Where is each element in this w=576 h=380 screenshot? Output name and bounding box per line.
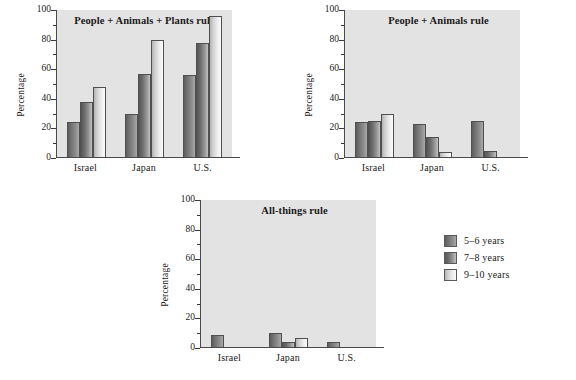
- legend-swatch: [444, 252, 457, 264]
- bar-groups-1: [57, 10, 232, 158]
- bar-group: [345, 10, 403, 158]
- bar-groups-3: [201, 200, 376, 348]
- y-tick-label: 80: [330, 35, 340, 45]
- x-axis-label: U.S.: [317, 348, 376, 370]
- bar: [426, 137, 439, 158]
- bar-group: [318, 200, 376, 348]
- legend-swatch: [444, 235, 457, 247]
- y-tick-label: 40: [42, 94, 52, 104]
- bar: [183, 75, 196, 158]
- bar-groups-2: [345, 10, 520, 158]
- x-axis-labels-3: IsraelJapanU.S.: [200, 348, 376, 370]
- x-axis-label: U.S.: [461, 158, 520, 180]
- legend-label: 9–10 years: [464, 269, 510, 280]
- y-axis-label-2: Percentage: [302, 10, 316, 180]
- plot-area-3: All-things rule: [200, 200, 376, 348]
- x-axis-label: Japan: [259, 348, 318, 370]
- bar: [269, 333, 282, 348]
- bar: [80, 102, 93, 158]
- chart-panel-2: Percentage 020406080100 People + Animals…: [304, 10, 522, 180]
- chart-panel-1: Percentage 020406080100 People + Animals…: [16, 10, 234, 180]
- bar-group: [174, 10, 232, 158]
- chart-panel-3: Percentage 020406080100 All-things rule …: [160, 200, 378, 370]
- bar: [413, 124, 426, 158]
- x-axis-label: Israel: [56, 158, 115, 180]
- y-tick-label: 100: [325, 5, 339, 15]
- y-tick-label: 60: [186, 254, 196, 264]
- y-tick-label: 80: [42, 35, 52, 45]
- bar: [93, 87, 106, 158]
- plot-area-2: People + Animals rule: [344, 10, 520, 158]
- legend-label: 5–6 years: [464, 235, 504, 246]
- bar: [67, 122, 80, 158]
- y-tick-label: 20: [330, 124, 340, 134]
- y-tick-label: 40: [330, 94, 340, 104]
- y-axis-label-3: Percentage: [158, 200, 172, 370]
- x-axis-label: U.S.: [173, 158, 232, 180]
- legend-item: 5–6 years: [444, 232, 564, 249]
- bar: [209, 16, 222, 158]
- x-axis-label: Israel: [200, 348, 259, 370]
- y-axis-ticks-2: 020406080100: [318, 10, 344, 158]
- bar: [196, 43, 209, 158]
- bar-group: [201, 200, 259, 348]
- y-axis-label-1: Percentage: [14, 10, 28, 180]
- y-tick-label: 60: [42, 64, 52, 74]
- bar: [368, 121, 381, 158]
- bar: [138, 74, 151, 158]
- y-axis-ticks-3: 020406080100: [174, 200, 200, 348]
- bar-group: [462, 10, 520, 158]
- bar: [355, 122, 368, 158]
- y-tick-label: 20: [186, 314, 196, 324]
- bar-group: [403, 10, 461, 158]
- bar: [381, 114, 394, 158]
- x-axis-labels-2: IsraelJapanU.S.: [344, 158, 520, 180]
- bar: [471, 121, 484, 158]
- bar: [125, 114, 138, 158]
- bar: [151, 40, 164, 158]
- y-tick-label: 40: [186, 284, 196, 294]
- figure: Percentage 020406080100 People + Animals…: [0, 0, 576, 380]
- bar-group: [57, 10, 115, 158]
- legend-item: 9–10 years: [444, 266, 564, 283]
- x-axis-labels-1: IsraelJapanU.S.: [56, 158, 232, 180]
- legend-item: 7–8 years: [444, 249, 564, 266]
- legend-swatch: [444, 269, 457, 281]
- y-tick-label: 60: [330, 64, 340, 74]
- plot-area-1: People + Animals + Plants rule: [56, 10, 232, 158]
- y-axis-ticks-1: 020406080100: [30, 10, 56, 158]
- y-tick-label: 20: [42, 124, 52, 134]
- legend-label: 7–8 years: [464, 252, 504, 263]
- x-axis-label: Japan: [115, 158, 174, 180]
- x-axis-label: Japan: [403, 158, 462, 180]
- bar-group: [115, 10, 173, 158]
- y-tick-label: 100: [37, 5, 51, 15]
- y-tick-label: 80: [186, 225, 196, 235]
- legend: 5–6 years7–8 years9–10 years: [444, 232, 564, 283]
- x-axis-label: Israel: [344, 158, 403, 180]
- bar-group: [259, 200, 317, 348]
- y-tick-label: 100: [181, 195, 195, 205]
